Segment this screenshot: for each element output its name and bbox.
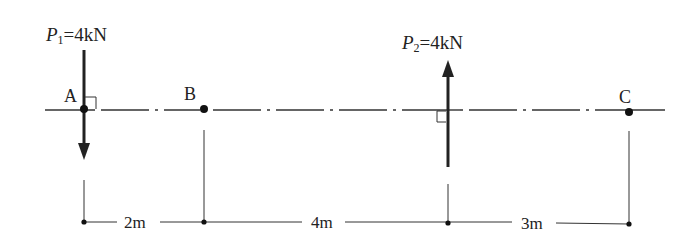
point-b-label: B bbox=[184, 84, 196, 104]
dimension-label-bp2: 4m bbox=[311, 213, 333, 232]
dim-dot-c bbox=[626, 221, 631, 226]
right-angle-mark-p2 bbox=[437, 111, 446, 122]
point-c-dot bbox=[625, 108, 633, 116]
force-p2-arrow bbox=[442, 60, 454, 167]
dimension-label-ab: 2m bbox=[124, 213, 146, 232]
point-a-label: A bbox=[64, 86, 77, 106]
extension-lines bbox=[84, 130, 629, 224]
beam-force-diagram: P1=4kN P2=4kN A B C bbox=[0, 0, 687, 242]
point-b-dot bbox=[200, 105, 208, 113]
dimension-line bbox=[84, 222, 629, 224]
dim-dot-a bbox=[81, 219, 86, 224]
force-p2-label: P2=4kN bbox=[401, 32, 463, 55]
dim-dot-p2 bbox=[445, 220, 450, 225]
point-a-dot bbox=[80, 105, 88, 113]
dim-dot-b bbox=[201, 219, 206, 224]
force-p1-label: P1=4kN bbox=[45, 24, 107, 47]
point-c-label: C bbox=[619, 87, 631, 107]
dimension-label-p2c: 3m bbox=[521, 214, 543, 233]
